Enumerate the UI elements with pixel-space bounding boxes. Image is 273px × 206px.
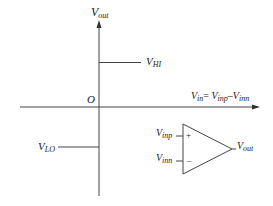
plus-sign-text: + (186, 130, 191, 140)
v-lo-sub: LO (45, 145, 55, 154)
x-axis-label: Vin= Vinp–Vinn (191, 91, 249, 103)
opamp-output-label: Vout (237, 141, 253, 153)
opamp-minus-sign: – (187, 156, 192, 165)
v-hi-label: VHI (146, 56, 161, 69)
inn-sub: inn (162, 156, 172, 165)
v-lo-label: VLO (38, 141, 55, 154)
diagram-canvas (0, 0, 273, 206)
out-sub: out (243, 144, 253, 153)
v-hi-sub: HI (153, 60, 161, 69)
y-axis-arrow-icon (97, 20, 102, 28)
opamp-input-plus-label: Vinp (156, 128, 172, 140)
opamp-plus-sign: + (186, 131, 191, 140)
x-label-t1-sub: inp (218, 94, 228, 103)
v-hi-main: V (146, 55, 153, 67)
opamp-input-minus-label: Vinn (156, 153, 172, 165)
x-label-t2-sub: inn (239, 94, 249, 103)
y-axis-label: Vout (91, 6, 109, 20)
minus-sign-text: – (187, 155, 192, 165)
origin-label: O (87, 94, 95, 105)
origin-text: O (87, 93, 95, 105)
v-lo-main: V (38, 140, 45, 152)
y-axis-label-sub: out (98, 11, 108, 20)
inp-sub: inp (162, 131, 172, 140)
x-axis-arrow-icon (252, 105, 260, 110)
